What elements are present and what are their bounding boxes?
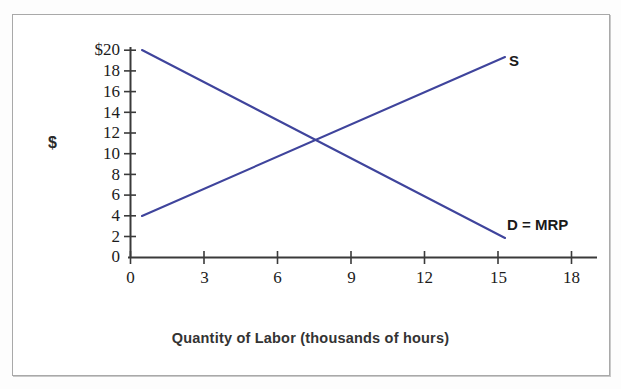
y-tick-label-14: 14 xyxy=(58,104,120,121)
x-tick-label-0: 0 xyxy=(110,269,151,286)
supply-curve xyxy=(142,57,505,216)
x-axis-title: Quantity of Labor (thousands of hours) xyxy=(0,330,621,346)
y-axis-title: $ xyxy=(48,134,57,152)
y-tick-label-16: 16 xyxy=(58,83,120,100)
y-tick-label-12: 12 xyxy=(58,124,120,141)
x-tick-label-12: 12 xyxy=(404,269,445,286)
x-tick-label-3: 3 xyxy=(184,269,225,286)
x-tick-label-18: 18 xyxy=(551,269,592,286)
supply-curve-label: S xyxy=(509,53,519,68)
y-tick-label-18: 18 xyxy=(58,62,120,79)
x-tick-label-9: 9 xyxy=(331,269,372,286)
figure-container: $20 18 16 14 12 10 8 6 4 2 0 0 3 6 9 12 … xyxy=(0,0,621,389)
x-tick-label-15: 15 xyxy=(478,269,519,286)
demand-curve-label: D = MRP xyxy=(507,217,568,232)
demand-curve xyxy=(142,50,505,238)
y-tick-label-10: 10 xyxy=(58,145,120,162)
y-tick-label-4: 4 xyxy=(58,207,120,224)
y-tick-label-20: $20 xyxy=(58,41,120,58)
y-tick-label-2: 2 xyxy=(58,228,120,245)
x-tick-label-6: 6 xyxy=(257,269,298,286)
y-tick-label-8: 8 xyxy=(58,166,120,183)
y-tick-label-6: 6 xyxy=(58,186,120,203)
y-tick-label-0: 0 xyxy=(58,248,120,265)
